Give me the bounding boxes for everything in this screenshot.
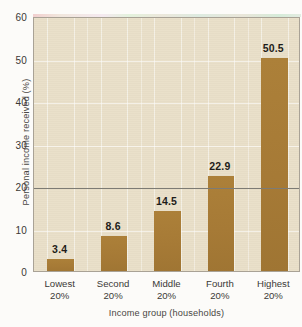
x-tick-label-line1: Fourth <box>206 278 234 289</box>
y-tick-label: 20 <box>15 182 27 193</box>
bar-value-label: 8.6 <box>105 220 120 232</box>
bar <box>208 176 235 272</box>
x-tick-label: Second20% <box>97 278 130 301</box>
x-tick-label: Middle20% <box>152 278 180 301</box>
bar <box>101 236 128 272</box>
bar <box>154 211 181 272</box>
bar-chart-figure: Personal income received (%) 01020304050… <box>0 0 302 327</box>
x-tick-label-line1: Middle <box>152 278 180 289</box>
bar <box>261 58 288 272</box>
bar <box>47 259 74 272</box>
x-tick-label-line2: 20% <box>206 290 234 302</box>
y-axis-tick-labels: 0102030405060 <box>0 0 31 327</box>
gridline-vertical <box>74 18 75 271</box>
y-tick-label: 40 <box>15 97 27 108</box>
x-tick-label-line2: 20% <box>152 290 180 302</box>
bar-value-label: 14.5 <box>156 195 177 207</box>
x-tick-label-line2: 20% <box>44 290 74 302</box>
x-tick-label: Lowest20% <box>44 278 74 301</box>
gridline-vertical <box>248 18 249 271</box>
x-tick-label: Highest20% <box>257 278 290 301</box>
y-tick-label: 30 <box>15 139 27 150</box>
x-tick-label-line1: Highest <box>257 278 290 289</box>
gridline-vertical <box>194 18 195 271</box>
x-tick-label-line2: 20% <box>257 290 290 302</box>
x-tick-label-line2: 20% <box>97 290 130 302</box>
plot-area <box>33 17 300 272</box>
y-tick-label: 50 <box>15 54 27 65</box>
y-tick-label: 0 <box>21 267 27 278</box>
reference-line-20 <box>34 188 299 189</box>
gridline-vertical <box>101 18 102 271</box>
gridline-vertical <box>47 18 48 271</box>
gridline-vertical <box>141 18 142 271</box>
gridline-vertical <box>87 18 88 271</box>
x-axis-title: Income group (households) <box>33 308 300 318</box>
gridline-vertical <box>127 18 128 271</box>
bar-value-label: 3.4 <box>52 243 67 255</box>
bar-value-label: 50.5 <box>263 42 284 54</box>
y-tick-label: 10 <box>15 224 27 235</box>
gridline-vertical <box>181 18 182 271</box>
y-tick-label: 60 <box>15 12 27 23</box>
x-tick-label-line1: Second <box>97 278 130 289</box>
bar-value-label: 22.9 <box>209 160 230 172</box>
x-tick-label: Fourth20% <box>206 278 234 301</box>
x-tick-label-line1: Lowest <box>44 278 74 289</box>
gridline-vertical <box>288 18 289 271</box>
